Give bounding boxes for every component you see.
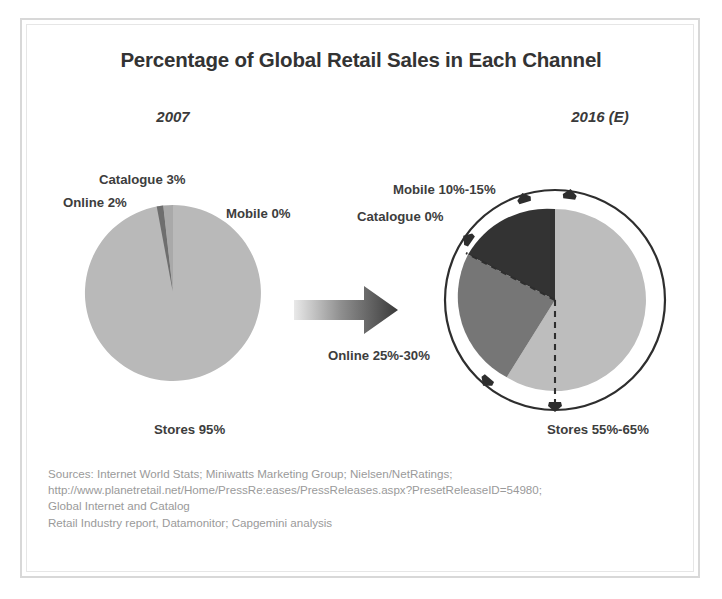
label-mobile-2016: Mobile 10%-15% [393,182,496,197]
sources-line-4: Retail Industry report, Datamonitor; Cap… [48,515,542,531]
chart-label-2007: 2007 [128,108,218,125]
pie-chart-2016 [430,175,680,425]
label-catalogue-2016: Catalogue 0% [357,209,443,224]
label-catalogue-2007: Catalogue 3% [99,172,185,187]
label-online-2016: Online 25%-30% [328,348,430,363]
transition-arrow-icon [292,282,402,338]
chart-page: Percentage of Global Retail Sales in Eac… [0,0,722,599]
sources-footnote: Sources: Internet World Stats; Miniwatts… [48,466,542,531]
sources-line-1: Sources: Internet World Stats; Miniwatts… [48,466,542,482]
chart-label-2016: 2016 (E) [545,108,655,125]
page-title: Percentage of Global Retail Sales in Eac… [0,48,722,72]
label-stores-2007: Stores 95% [154,422,225,437]
sources-line-3: Global Internet and Catalog [48,498,542,514]
sources-line-2: http://www.planetretail.net/Home/PressRe… [48,482,542,498]
label-stores-2016: Stores 55%-65% [547,422,649,437]
pie-chart-2007 [78,198,268,388]
label-online-2007: Online 2% [63,195,127,210]
label-mobile-2007: Mobile 0% [226,206,290,221]
